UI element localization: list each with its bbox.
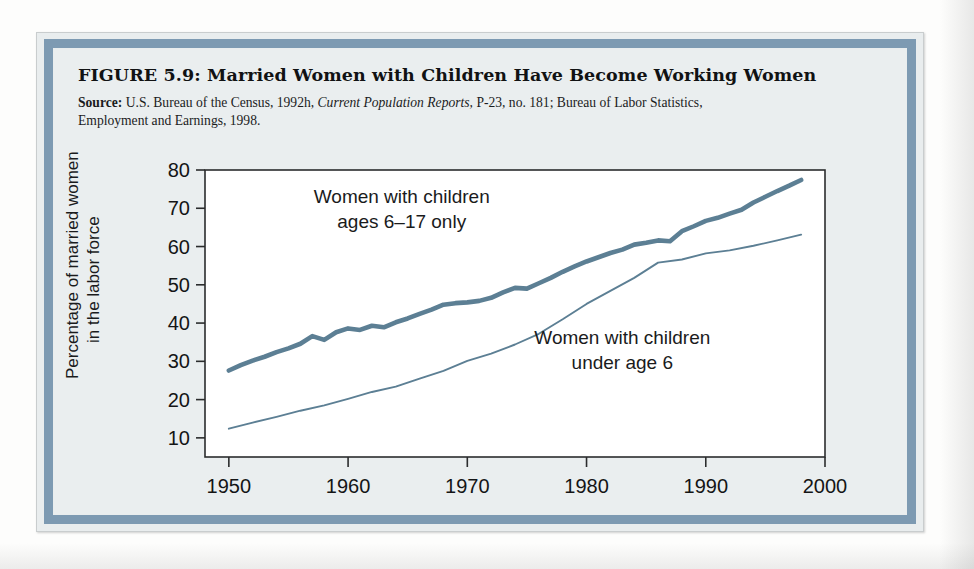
y-axis-title-line2: in the labor force [84, 216, 103, 343]
y-tick-label: 70 [168, 197, 190, 219]
y-axis-title-line1: Percentage of married women [63, 151, 82, 379]
chart-annotations: Women with childrenages 6–17 onlyWomen w… [314, 186, 711, 374]
x-tick-label: 1960 [326, 475, 371, 497]
source-label: Source: [78, 95, 122, 110]
y-axis-ticks: 1020304050607080 [168, 159, 205, 449]
figure-source: Source: U.S. Bureau of the Census, 1992h… [78, 94, 868, 129]
data-line-ages-6-17 [229, 180, 801, 371]
x-tick-label: 1970 [445, 475, 490, 497]
x-tick-label: 2000 [803, 475, 848, 497]
page-canvas: FIGURE 5.9: Married Women with Children … [0, 0, 974, 569]
annotation-under-age-6-line1: Women with children [534, 327, 710, 348]
y-axis-title: Percentage of married women in the labor… [63, 151, 103, 379]
y-tick-label: 60 [168, 236, 190, 258]
annotation-under-age-6-line2: under age 6 [572, 352, 673, 373]
figure-content: FIGURE 5.9: Married Women with Children … [54, 49, 906, 514]
x-tick-label: 1990 [684, 475, 729, 497]
plot-frame [205, 170, 825, 457]
y-tick-label: 80 [168, 159, 190, 181]
x-tick-label: 1950 [207, 475, 252, 497]
x-axis-ticks: 195019601970198019902000 [207, 457, 848, 497]
y-tick-label: 30 [168, 350, 190, 372]
data-line-under-age-6 [229, 235, 801, 429]
y-tick-label: 20 [168, 389, 190, 411]
figure-title: FIGURE 5.9: Married Women with Children … [78, 65, 886, 85]
source-publication-title: Current Population Reports, [318, 95, 473, 110]
source-text-part2: P-23, no. 181; Bureau of Labor Statistic… [473, 95, 703, 110]
y-tick-label: 10 [168, 427, 190, 449]
x-tick-label: 1980 [564, 475, 609, 497]
annotation-ages-6-17-line1: Women with children [314, 186, 490, 207]
annotation-ages-6-17-line2: ages 6–17 only [337, 211, 466, 232]
source-text-part3: Employment and Earnings, 1998. [78, 113, 260, 128]
figure-frame: FIGURE 5.9: Married Women with Children … [36, 32, 924, 532]
y-tick-label: 50 [168, 274, 190, 296]
data-series-group [229, 180, 801, 429]
source-text-part1: U.S. Bureau of the Census, 1992h, [122, 95, 317, 110]
y-tick-label: 40 [168, 312, 190, 334]
